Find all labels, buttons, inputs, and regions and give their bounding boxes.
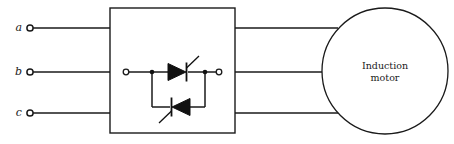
supply-terminals bbox=[27, 25, 33, 116]
schematic-figure: a b c Induction motor bbox=[0, 0, 454, 144]
supply-lines bbox=[33, 28, 110, 113]
phase-label-c: c bbox=[6, 107, 22, 118]
thyristor-terminal-right bbox=[216, 69, 222, 75]
terminal-node-a bbox=[27, 25, 33, 31]
induction-motor-label: Induction motor bbox=[340, 60, 430, 83]
terminal-node-b bbox=[27, 69, 33, 75]
terminal-node-c bbox=[27, 110, 33, 116]
phase-label-a: a bbox=[6, 22, 22, 33]
phase-label-b: b bbox=[6, 66, 22, 77]
thyristor-terminal-left bbox=[123, 69, 129, 75]
junction-dot-left bbox=[150, 70, 155, 75]
junction-dot-right bbox=[203, 70, 208, 75]
